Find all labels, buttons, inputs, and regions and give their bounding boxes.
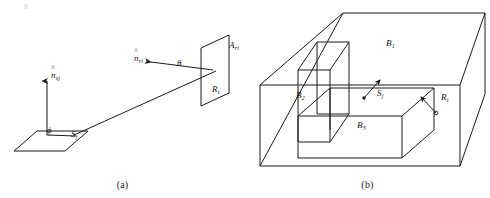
label-source-point: Sj	[377, 89, 383, 98]
label-angle-phi: ϕ	[47, 126, 52, 135]
panel-b-caption: (b)	[245, 179, 490, 190]
label-box-3: B3	[357, 121, 366, 130]
label-source-patch: Sj	[71, 130, 77, 139]
label-box-2: B2	[296, 91, 305, 100]
inner-box-b2-front-face	[298, 70, 330, 142]
label-angle-theta: θ	[177, 59, 181, 68]
panel-a-drawing	[0, 0, 245, 198]
panel-b: B1 B2 B3 Sj Ri (b)	[245, 0, 490, 198]
label-normal-source: nsj	[51, 71, 60, 80]
inner-box-b3-right-face-bottom	[402, 130, 434, 158]
panel-a: nsj nri ϕ θ Sj Ari Ri (a)	[0, 0, 245, 198]
panel-b-drawing	[245, 0, 490, 198]
panel-a-caption: (a)	[0, 179, 245, 190]
connecting-ray	[74, 71, 216, 135]
inner-box-b2-top-face	[298, 42, 349, 70]
figure-container: nsj nri ϕ θ Sj Ari Ri (a)	[0, 0, 490, 198]
label-receiver-point: Ri	[441, 93, 448, 102]
receiver-patch-outline	[201, 35, 229, 106]
label-receiver-area: Ari	[229, 41, 239, 50]
label-receiver-patch: Ri	[212, 85, 219, 94]
inner-box-b3-top-face	[298, 88, 434, 116]
outer-box-top-face	[260, 13, 485, 85]
label-normal-receiver: nri	[134, 54, 143, 63]
receiver-normal-arrow	[151, 62, 213, 70]
inner-box-b3-front-face	[298, 116, 402, 158]
inner-box-b2-right-face-bottom	[330, 114, 349, 142]
label-box-1: B1	[386, 39, 395, 48]
outer-box-right-face-diagonal	[460, 94, 485, 166]
